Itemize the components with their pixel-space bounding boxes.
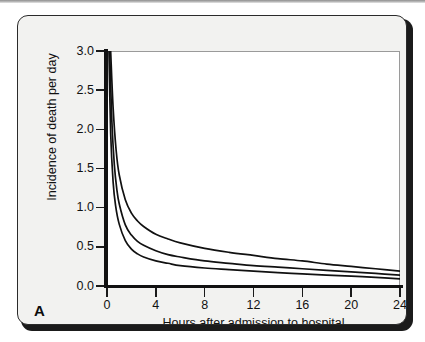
x-tick-mark [350,288,352,297]
y-tick-mark [96,89,104,91]
chart-curves [107,51,400,286]
x-tick-label: 12 [241,299,267,312]
x-tick-label: 20 [338,299,364,312]
figure-card: 0.00.51.01.52.02.53.0 04812162024 Incide… [17,15,407,325]
y-tick-label: 2.5 [64,84,94,97]
y-tick-label: 1.5 [64,162,94,175]
curve-upper [111,51,400,271]
top-rule [0,0,425,3]
y-tick-mark [96,246,104,248]
y-tick-label: 3.0 [64,45,94,58]
curve-lower [109,51,400,279]
y-tick-mark [96,50,104,52]
y-tick-mark [96,129,104,131]
y-tick-label: 1.0 [64,201,94,214]
x-tick-mark [302,288,304,297]
x-tick-label: 8 [192,299,218,312]
x-tick-label: 24 [387,299,407,312]
x-axis-title: Hours after admission to hospital [107,316,400,325]
y-axis-line [104,49,108,288]
y-tick-label: 2.0 [64,123,94,136]
x-tick-label: 16 [289,299,315,312]
x-tick-mark [253,288,255,297]
x-tick-mark [399,288,401,297]
y-tick-mark [96,168,104,170]
y-tick-mark [96,207,104,209]
panel-label: A [34,302,45,319]
x-tick-label: 0 [94,299,120,312]
curve-middle [110,51,400,275]
y-axis-title: Incidence of death per day [45,17,59,237]
series-group [109,51,400,279]
x-tick-mark [204,288,206,297]
y-tick-mark [96,285,104,287]
x-tick-label: 4 [143,299,169,312]
x-tick-mark [155,288,157,297]
y-tick-label: 0.5 [64,240,94,253]
x-tick-mark [106,288,108,297]
y-tick-label: 0.0 [64,280,94,293]
